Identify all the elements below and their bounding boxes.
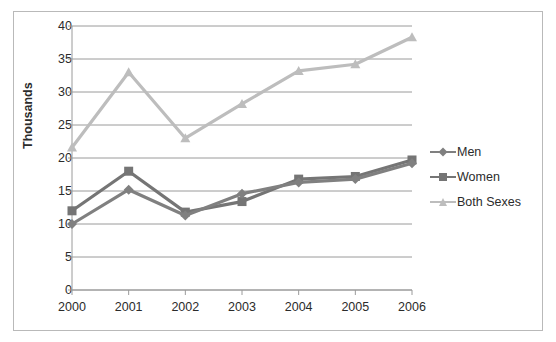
chart-legend: MenWomenBoth Sexes <box>430 139 542 214</box>
x-axis-tick-label: 2004 <box>285 300 313 314</box>
legend-swatch <box>430 171 456 183</box>
chart-container: Thousands 0510152025303540 2000200120022… <box>0 0 556 342</box>
legend-label: Both Sexes <box>456 195 521 209</box>
x-axis-tick-label: 2006 <box>398 300 426 314</box>
legend-marker-diamond-icon <box>438 147 447 156</box>
legend-label: Women <box>456 170 500 184</box>
legend-item-women[interactable]: Women <box>430 164 542 189</box>
legend-swatch <box>430 196 456 208</box>
legend-marker-square-icon <box>439 173 447 181</box>
x-axis-tick-label: 2005 <box>341 300 369 314</box>
x-axis-tick-label: 2002 <box>171 300 199 314</box>
legend-item-both-sexes[interactable]: Both Sexes <box>430 189 542 214</box>
legend-label: Men <box>456 145 481 159</box>
legend-marker-triangle-icon <box>439 198 447 206</box>
x-axis-tick-label: 2001 <box>115 300 143 314</box>
x-axis-tick-label: 2003 <box>228 300 256 314</box>
x-axis-tick-label: 2000 <box>58 300 86 314</box>
legend-swatch <box>430 146 456 158</box>
legend-item-men[interactable]: Men <box>430 139 542 164</box>
